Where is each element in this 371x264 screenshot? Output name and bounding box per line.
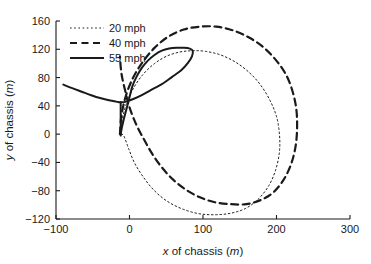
y-axis-tick-labels: −120−80−4004080120160 (25, 15, 50, 225)
x-axis-ticks (56, 215, 350, 219)
legend-label-40-mph: 40 mph (109, 37, 146, 49)
x-tick-label: 100 (194, 223, 212, 235)
curve-40-mph (120, 26, 297, 204)
x-axis-tick-labels: −1000100200300 (44, 223, 360, 235)
curve-20-mph (120, 51, 280, 215)
legend-label-20-mph: 20 mph (109, 22, 146, 34)
legend-label-55-mph: 55 mph (109, 52, 146, 64)
y-tick-label: 160 (32, 15, 50, 27)
chart-legend: 20 mph40 mph55 mph (70, 22, 146, 64)
y-axis-title: y of chassis (m) (3, 80, 15, 162)
y-tick-label: −80 (31, 185, 50, 197)
y-tick-label: 80 (38, 72, 50, 84)
y-tick-label: −120 (25, 213, 50, 225)
y-tick-label: −40 (31, 156, 50, 168)
y-tick-label: 0 (44, 128, 50, 140)
x-tick-label: 0 (126, 223, 132, 235)
trajectory-plot: −1000100200300 −120−80−4004080120160 20 … (0, 0, 371, 264)
y-tick-label: 40 (38, 100, 50, 112)
y-axis-ticks (56, 21, 60, 219)
y-tick-label: 120 (32, 43, 50, 55)
x-tick-label: 300 (341, 223, 359, 235)
x-tick-label: 200 (267, 223, 285, 235)
data-curves (63, 26, 297, 214)
chart-figure: −1000100200300 −120−80−4004080120160 20 … (0, 0, 371, 264)
x-axis-title: x of chassis (m) (162, 245, 244, 257)
